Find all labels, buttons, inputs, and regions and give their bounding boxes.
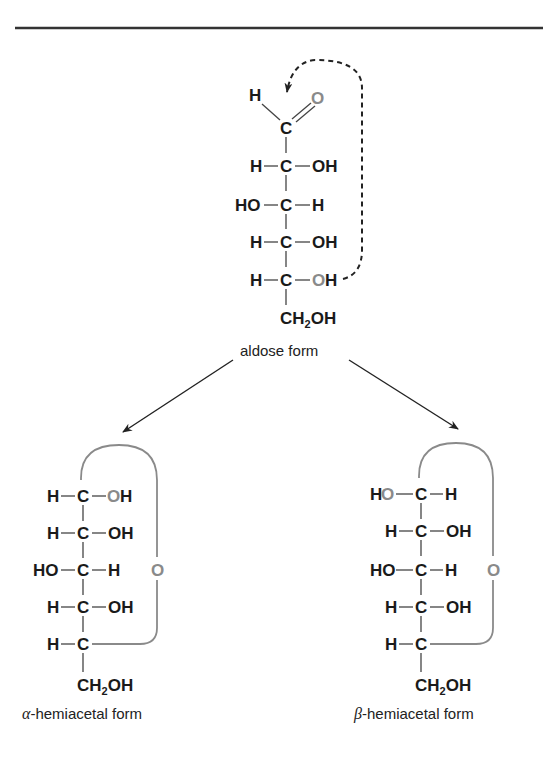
aldose-row-3: H C OH <box>250 233 338 267</box>
svg-text:C: C <box>77 524 89 543</box>
alpha-row-5: H C <box>47 635 89 672</box>
svg-text:C: C <box>280 271 292 290</box>
alpha-ring-oxygen: O <box>151 561 164 580</box>
beta-row-5: H C <box>385 635 427 672</box>
svg-text:OH: OH <box>108 598 134 617</box>
svg-text:OH: OH <box>312 157 338 176</box>
svg-text:OH: OH <box>446 522 472 541</box>
svg-text:H: H <box>325 271 337 290</box>
svg-text:O: O <box>381 485 394 504</box>
svg-text:C: C <box>77 635 89 654</box>
aldose-row-4: H C O H <box>250 271 337 305</box>
svg-text:C: C <box>415 561 427 580</box>
alpha-ch2oh: CH2OH <box>77 676 133 697</box>
alpha-hemiacetal-structure: O H C O H H C OH HO C H H C <box>22 445 164 722</box>
arrow-to-beta <box>349 360 458 429</box>
svg-text:H: H <box>445 485 457 504</box>
svg-text:C: C <box>415 598 427 617</box>
svg-text:OH: OH <box>108 524 134 543</box>
svg-text:OH: OH <box>446 598 472 617</box>
alpha-row-2: H C OH <box>47 524 134 558</box>
beta-row-1: H O C H <box>370 485 457 519</box>
svg-text:H: H <box>47 524 59 543</box>
beta-row-2: H C OH <box>385 522 472 556</box>
svg-text:H: H <box>108 561 120 580</box>
beta-hemiacetal-structure: O H O C H H C OH HO C H H C <box>353 443 500 723</box>
aldehyde-h: H <box>249 86 261 105</box>
aldehyde-o: O <box>311 89 324 108</box>
svg-text:H: H <box>47 487 59 506</box>
svg-text:HO: HO <box>370 561 396 580</box>
svg-text:C: C <box>280 196 292 215</box>
svg-text:HO: HO <box>235 196 261 215</box>
svg-text:H: H <box>47 598 59 617</box>
svg-text:O: O <box>107 487 120 506</box>
svg-text:C: C <box>415 635 427 654</box>
aldose-ch2oh: CH2OH <box>280 309 336 330</box>
svg-text:H: H <box>120 487 132 506</box>
svg-text:H: H <box>385 598 397 617</box>
alpha-label: α-hemiacetal form <box>22 705 142 722</box>
svg-text:C: C <box>77 561 89 580</box>
beta-ch2oh: CH2OH <box>415 676 471 697</box>
aldose-label: aldose form <box>240 342 318 359</box>
svg-text:C: C <box>280 233 292 252</box>
beta-row-3: HO C H <box>370 561 457 595</box>
svg-text:H: H <box>250 157 262 176</box>
svg-text:H: H <box>312 196 324 215</box>
alpha-row-3: HO C H <box>33 561 120 595</box>
alpha-row-4: H C OH <box>47 598 134 632</box>
svg-text:C: C <box>77 487 89 506</box>
aldose-structure: H O C H C OH HO C H H C OH <box>235 60 362 359</box>
svg-text:H: H <box>445 561 457 580</box>
carbonyl-c: C <box>280 119 292 138</box>
aldose-row-2: HO C H <box>235 196 324 229</box>
svg-text:C: C <box>415 485 427 504</box>
svg-text:H: H <box>250 271 262 290</box>
svg-text:HO: HO <box>33 561 59 580</box>
beta-label: β-hemiacetal form <box>353 705 474 723</box>
svg-text:H: H <box>385 522 397 541</box>
svg-text:C: C <box>280 157 292 176</box>
svg-text:C: C <box>77 598 89 617</box>
svg-text:O: O <box>312 271 325 290</box>
aldose-row-1: H C OH <box>250 157 338 191</box>
arrow-to-alpha <box>123 360 233 432</box>
hemiacetal-diagram: H O C H C OH HO C H H C OH <box>0 0 543 760</box>
beta-row-4: H C OH <box>385 598 472 632</box>
svg-text:C: C <box>415 522 427 541</box>
svg-text:H: H <box>47 635 59 654</box>
svg-text:H: H <box>250 233 262 252</box>
alpha-row-1: H C O H <box>47 487 132 521</box>
svg-text:H: H <box>385 635 397 654</box>
beta-ring-oxygen: O <box>487 561 500 580</box>
svg-text:OH: OH <box>312 233 338 252</box>
